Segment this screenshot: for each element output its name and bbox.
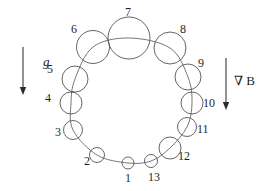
gravity-arrow-head bbox=[20, 87, 26, 95]
field-gradient-label: ∇ B bbox=[234, 74, 255, 87]
bubble-label-2: 2 bbox=[84, 155, 90, 167]
bubble-label-4: 4 bbox=[45, 92, 51, 104]
bubble-label-8: 8 bbox=[180, 23, 186, 35]
bubble-ring-figure: 12345678910111213 g ∇ B bbox=[0, 0, 270, 191]
bubble-label-10: 10 bbox=[203, 97, 215, 109]
gravity-arrow bbox=[20, 47, 26, 95]
bubble-label-9: 9 bbox=[198, 57, 204, 69]
ring-loop-path bbox=[70, 38, 192, 163]
bubble-label-12: 12 bbox=[178, 150, 190, 162]
bubble-label-1: 1 bbox=[125, 172, 131, 184]
bubble-group bbox=[60, 17, 203, 169]
ring-loop bbox=[70, 38, 192, 163]
field-gradient-arrow bbox=[223, 58, 229, 110]
bubble-label-3: 3 bbox=[55, 126, 61, 138]
bubble-label-7: 7 bbox=[125, 6, 131, 18]
field-gradient-arrow-head bbox=[223, 102, 229, 110]
figure-canvas bbox=[0, 0, 270, 191]
gravity-label: g bbox=[43, 55, 50, 68]
bubble-label-6: 6 bbox=[71, 23, 77, 35]
bubble-label-11: 11 bbox=[197, 123, 209, 135]
bubble-label-13: 13 bbox=[148, 171, 160, 183]
